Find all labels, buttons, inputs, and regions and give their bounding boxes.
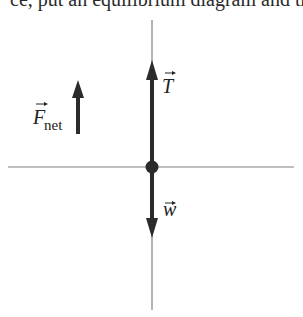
- weight-label: w: [163, 198, 177, 220]
- particle-dot: [146, 161, 159, 174]
- tension-label: T: [162, 71, 176, 97]
- net-force-label: F net: [32, 102, 63, 133]
- net-force-vector: [72, 80, 84, 134]
- weight-vector: [146, 167, 158, 238]
- svg-text:w: w: [163, 198, 177, 220]
- tension-vector: [146, 60, 158, 167]
- svg-text:net: net: [44, 117, 63, 133]
- free-body-diagram: F net T w: [0, 0, 303, 317]
- svg-text:T: T: [162, 75, 175, 97]
